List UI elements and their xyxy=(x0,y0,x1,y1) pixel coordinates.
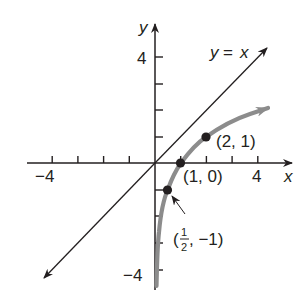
identity-line-label: y = x xyxy=(209,43,249,62)
log-graph: y x 4 −4 −4 4 y = x (2, 1) (1, 0) ( 1 2 … xyxy=(0,0,307,290)
point-label-1-0: (1, 0) xyxy=(183,167,223,186)
x-tick-label-4: 4 xyxy=(252,167,261,186)
svg-text:=: = xyxy=(223,43,233,62)
svg-text:y: y xyxy=(209,43,220,62)
x-tick-label-neg4: −4 xyxy=(35,167,54,186)
x-axis-label: x xyxy=(283,167,293,186)
pointer-arrow xyxy=(172,196,185,214)
svg-text:(: ( xyxy=(173,230,179,249)
y-axis-label: y xyxy=(138,18,149,37)
point-2-1 xyxy=(201,132,210,141)
svg-text:2: 2 xyxy=(181,241,187,253)
y-tick-label-4: 4 xyxy=(137,49,146,68)
point-label-half-neg1: ( 1 2 , −1) xyxy=(173,226,224,253)
svg-text:, −1): , −1) xyxy=(189,230,224,249)
svg-text:1: 1 xyxy=(181,226,187,238)
x-axis xyxy=(27,156,292,163)
y-tick-label-neg4: −4 xyxy=(123,266,142,285)
svg-text:x: x xyxy=(239,43,249,62)
point-label-2-1: (2, 1) xyxy=(216,132,256,151)
point-half-neg1 xyxy=(163,185,172,194)
